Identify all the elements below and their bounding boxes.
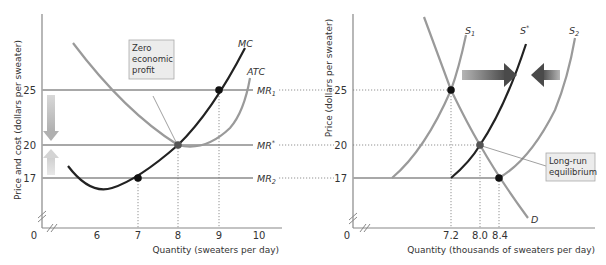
right-x-tick-8-0: 8.0 [472, 230, 488, 241]
s2-label: S2 [569, 25, 579, 38]
point-q7-2-p25 [447, 86, 455, 94]
demand-label: D [531, 214, 538, 225]
figure: Price and cost (dollars per sweater) 25 … [0, 0, 606, 265]
right-x-tick-8-4: 8.4 [492, 230, 508, 241]
mc-label: MC [238, 38, 253, 49]
left-origin-label: 0 [31, 230, 37, 241]
right-origin-label: 0 [344, 230, 350, 241]
right-x-tick-7-2: 7.2 [443, 230, 459, 241]
right-y-tick-25: 25 [334, 85, 347, 96]
left-x-tick-8: 8 [175, 230, 181, 241]
left-x-tick-7: 7 [135, 230, 141, 241]
mr2-label: MR2 [257, 173, 276, 186]
demand-curve [424, 17, 528, 218]
left-axis-break-icon [38, 211, 57, 232]
left-y-tick-25: 25 [23, 85, 36, 96]
point-q8-4-p17 [495, 174, 503, 182]
mr1-label: MR1 [257, 85, 276, 98]
point-q8-0-p20 [476, 141, 484, 149]
price-rise-arrow-icon [43, 149, 59, 175]
point-q9-p25 [215, 86, 223, 94]
mr-star-label: MR* [257, 139, 276, 151]
right-y-axis-label: Price (dollars per sweater) [324, 19, 334, 138]
zero-profit-note-line1: Zero [132, 43, 152, 53]
left-y-tick-20: 20 [23, 140, 36, 151]
left-x-axis-label: Quantity (sweaters per day) [152, 245, 279, 255]
long-run-note-line1: Long-run [549, 156, 587, 166]
left-y-axis-label: Price and cost (dollars per sweater) [13, 40, 23, 200]
left-x-tick-10: 10 [253, 230, 266, 241]
right-axis-break-icon [349, 213, 370, 232]
long-run-note-line2: equilibrium [549, 167, 597, 177]
supply-shift-left-arrow-icon [531, 63, 560, 87]
left-x-tick-6: 6 [94, 230, 100, 241]
zero-profit-note-line3: profit [132, 65, 155, 75]
price-fall-arrow-icon [43, 95, 59, 141]
right-x-axis-label: Quantity (thousands of sweaters per day) [407, 245, 595, 255]
point-q7-p17 [134, 174, 142, 182]
right-y-tick-20: 20 [334, 140, 347, 151]
s-star-label: S* [520, 24, 530, 36]
supply-shift-right-arrow-icon [462, 63, 517, 87]
left-chart: Price and cost (dollars per sweater) 25 … [13, 14, 300, 255]
left-x-tick-9: 9 [216, 230, 222, 241]
atc-label: ATC [246, 66, 266, 77]
right-chart: Price (dollars per sweater) 25 20 17 0 7… [300, 14, 597, 255]
left-y-tick-17: 17 [23, 173, 36, 184]
right-y-tick-17: 17 [334, 173, 347, 184]
point-q8-p20 [174, 141, 182, 149]
s1-curve [392, 35, 466, 178]
chart-svg: Price and cost (dollars per sweater) 25 … [0, 0, 606, 265]
zero-profit-note-line2: economic [132, 54, 173, 64]
